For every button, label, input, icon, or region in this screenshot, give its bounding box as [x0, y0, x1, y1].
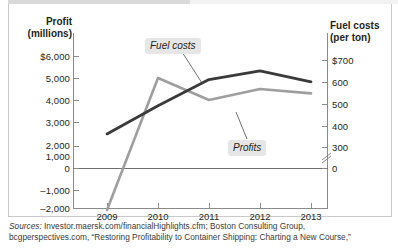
source-line1: Investor.maersk.com/financialHighlights.…: [42, 221, 305, 231]
series-line-profits: [107, 78, 311, 210]
leader-line-profits: [236, 112, 247, 139]
series-line-fuel-costs: [107, 71, 311, 134]
callout-profits: Profits: [228, 140, 266, 156]
chart-figure: Profit (millions) Fuel costs (per ton) $…: [0, 0, 398, 250]
source-note: Sources: Investor.maersk.com/financialHi…: [9, 221, 391, 242]
leader-line-fuel-costs: [182, 52, 202, 83]
callout-fuel-costs: Fuel costs: [145, 38, 201, 54]
source-lead: Sources:: [9, 221, 42, 231]
source-line2: bcgperspectives.com, “Restoring Profitab…: [9, 232, 351, 242]
